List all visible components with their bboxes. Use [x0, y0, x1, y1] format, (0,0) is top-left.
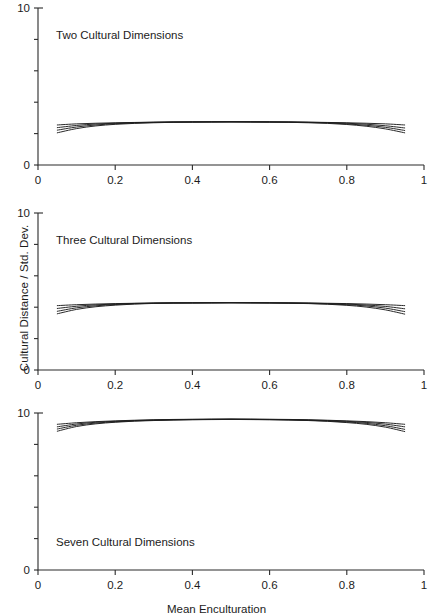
y-tick-label-0: 0 [24, 564, 30, 576]
x-tick-label-0.8: 0.8 [339, 174, 355, 186]
chart-panel-three-dimensions: 01000.20.40.60.81Three Cultural Dimensio… [0, 205, 433, 395]
x-tick-label-0.2: 0.2 [107, 379, 123, 391]
panel-title: Three Cultural Dimensions [56, 234, 192, 246]
panel-plot-area: 01000.20.40.60.81Three Cultural Dimensio… [0, 205, 433, 395]
panel-plot-area: 01000.20.40.60.81Two Cultural Dimensions [0, 0, 433, 190]
chart-panel-seven-dimensions: 01000.20.40.60.81Seven Cultural Dimensio… [0, 405, 433, 595]
x-tick-label-0.2: 0.2 [107, 174, 123, 186]
y-tick-label-0: 0 [24, 159, 30, 171]
x-tick-label-0: 0 [35, 579, 41, 591]
y-tick-label-10: 10 [17, 207, 30, 219]
y-tick-label-10: 10 [17, 407, 30, 419]
x-tick-label-0.4: 0.4 [184, 579, 201, 591]
x-tick-label-1: 1 [421, 379, 427, 391]
x-tick-label-0: 0 [35, 379, 41, 391]
x-tick-label-0.6: 0.6 [262, 174, 278, 186]
x-tick-label-0.6: 0.6 [262, 379, 278, 391]
panel-plot-area: 01000.20.40.60.81Seven Cultural Dimensio… [0, 405, 433, 595]
panel-title: Seven Cultural Dimensions [56, 536, 195, 548]
x-tick-label-0.4: 0.4 [184, 379, 201, 391]
x-tick-label-0: 0 [35, 174, 41, 186]
x-tick-label-0.8: 0.8 [339, 579, 355, 591]
x-tick-label-1: 1 [421, 174, 427, 186]
chart-panel-two-dimensions: 01000.20.40.60.81Two Cultural Dimensions [0, 0, 433, 190]
x-tick-label-1: 1 [421, 579, 427, 591]
y-tick-label-10: 10 [17, 2, 30, 14]
x-tick-label-0.4: 0.4 [184, 174, 201, 186]
panel-title: Two Cultural Dimensions [56, 29, 183, 41]
x-tick-label-0.6: 0.6 [262, 579, 278, 591]
y-tick-label-0: 0 [24, 364, 30, 376]
x-axis-label: Mean Enculturation [0, 603, 433, 615]
x-tick-label-0.2: 0.2 [107, 579, 123, 591]
x-tick-label-0.8: 0.8 [339, 379, 355, 391]
